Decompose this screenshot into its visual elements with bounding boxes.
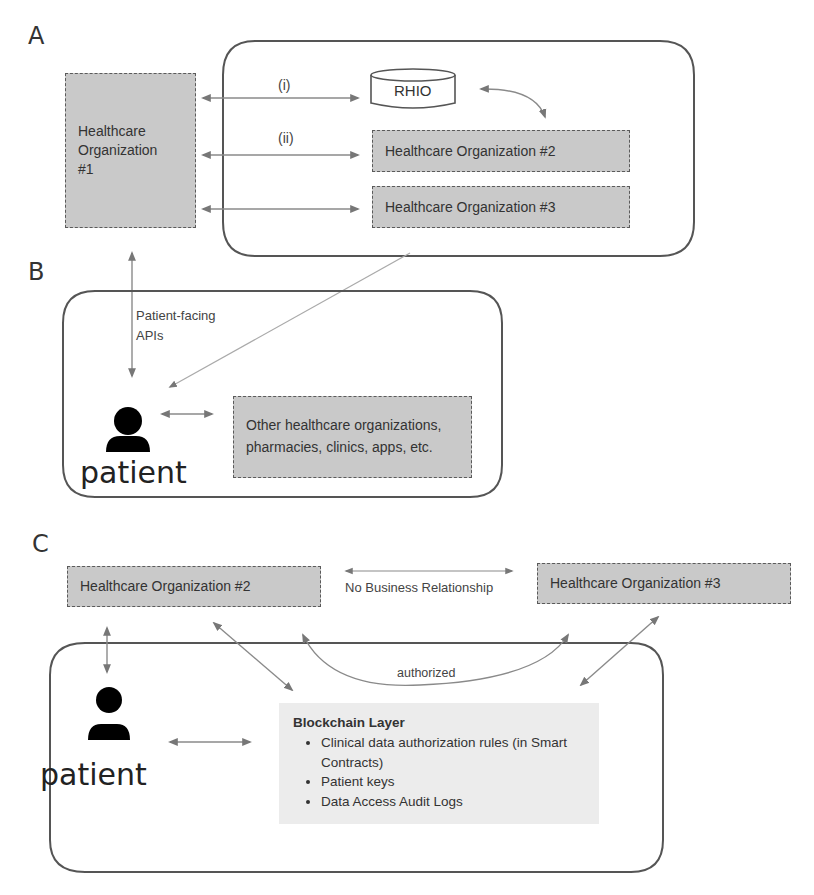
arrow-c-org2-blockchain (214, 623, 292, 690)
patient-label-b: patient (80, 455, 187, 490)
healthcare-org-3-box: Healthcare Organization #3 (372, 186, 630, 228)
healthcare-org-1-box: Healthcare Organization #1 (65, 73, 196, 228)
rhio-label: RHIO (394, 82, 432, 99)
api-label-line1: Patient-facing (136, 308, 216, 323)
org2-label: Healthcare Organization #2 (373, 142, 555, 161)
api-label-line2: APIs (136, 328, 163, 343)
blockchain-layer-list: Clinical data authorization rules (in Sm… (293, 733, 585, 811)
patient-facing-apis-label: Patient-facing APIs (136, 306, 216, 345)
arrow-rhio-org2 (481, 89, 545, 117)
healthcare-org-2-box: Healthcare Organization #2 (372, 130, 630, 172)
org3-label: Healthcare Organization #3 (373, 198, 555, 217)
section-c-label: C (32, 530, 49, 558)
patient-person-icon (88, 687, 130, 740)
section-a-label: A (28, 22, 44, 50)
blockchain-item: Clinical data authorization rules (in Sm… (321, 733, 585, 772)
c-org3-label: Healthcare Organization #3 (538, 574, 720, 593)
blockchain-layer-title: Blockchain Layer (293, 715, 585, 730)
authorized-label: authorized (397, 666, 455, 680)
others-line2: pharmacies, clinics, apps, etc. (246, 439, 433, 455)
patient-person-icon (106, 407, 150, 452)
section-b-label: B (28, 258, 44, 286)
arrow-c-org3-blockchain (581, 617, 658, 685)
patient-label-c: patient (40, 757, 147, 792)
arrow-label-i: (i) (278, 77, 290, 93)
others-line1: Other healthcare organizations, (246, 417, 441, 433)
other-orgs-box: Other healthcare organizations, pharmaci… (233, 396, 472, 478)
org1-label-line1: Healthcare (78, 123, 146, 139)
c-org2-label: Healthcare Organization #2 (68, 577, 250, 596)
blockchain-item: Data Access Audit Logs (321, 792, 585, 812)
blockchain-layer-box: Blockchain Layer Clinical data authoriza… (279, 703, 599, 824)
arrow-label-ii: (ii) (278, 130, 294, 146)
no-business-relationship-label: No Business Relationship (345, 580, 493, 595)
org1-label-line2: Organization (78, 142, 157, 158)
c-healthcare-org-3-box: Healthcare Organization #3 (537, 563, 791, 604)
c-healthcare-org-2-box: Healthcare Organization #2 (67, 566, 321, 607)
org1-label-line3: #1 (78, 161, 94, 177)
blockchain-item: Patient keys (321, 772, 585, 792)
